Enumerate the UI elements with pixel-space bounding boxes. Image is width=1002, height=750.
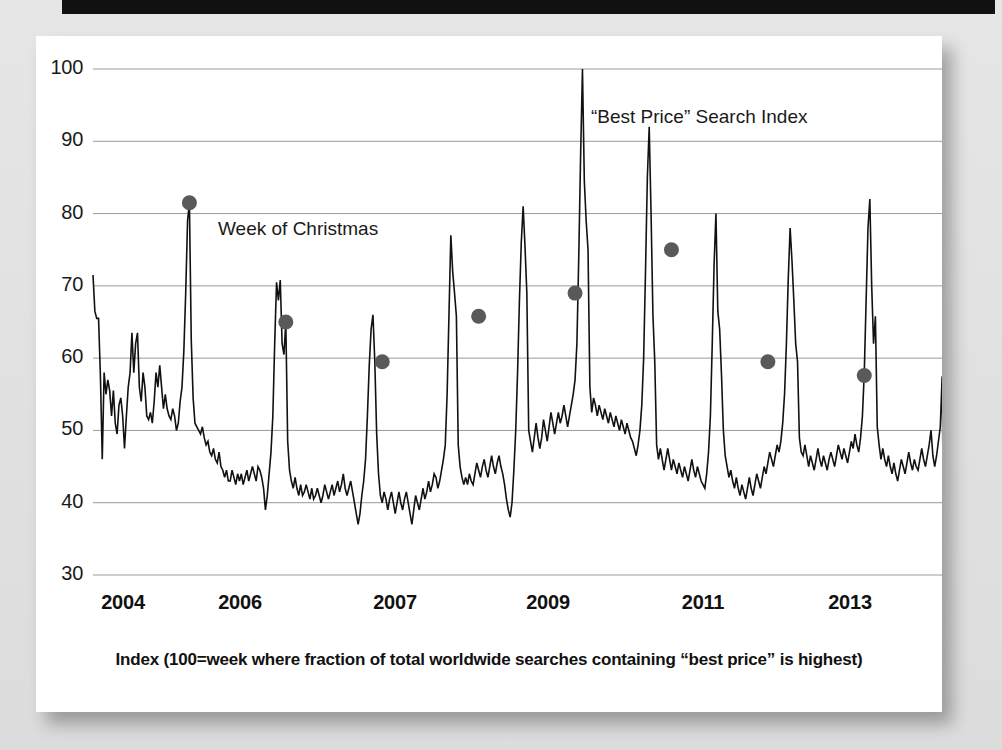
- plot-area: 3040506070809010020042006200720092011201…: [36, 36, 942, 712]
- y-axis-tick-label: 40: [37, 490, 83, 513]
- christmas-week-marker: [278, 315, 293, 330]
- search-index-line: [93, 69, 942, 575]
- chart-caption: Index (100=week where fraction of total …: [36, 650, 942, 670]
- y-axis-tick-label: 70: [37, 273, 83, 296]
- x-axis-tick-label: 2007: [355, 591, 435, 614]
- x-axis-tick-label: 2011: [663, 591, 743, 614]
- x-axis-tick-label: 2013: [810, 591, 890, 614]
- x-axis-tick-label: 2009: [508, 591, 588, 614]
- page-root: 3040506070809010020042006200720092011201…: [0, 0, 1002, 750]
- line-chart-svg: [36, 36, 942, 712]
- y-axis-tick-label: 60: [37, 345, 83, 368]
- christmas-week-marker: [471, 309, 486, 324]
- y-axis-tick-label: 80: [37, 201, 83, 224]
- y-axis-tick-label: 30: [37, 562, 83, 585]
- christmas-week-marker: [568, 286, 583, 301]
- christmas-week-marker: [760, 354, 775, 369]
- x-axis-tick-label: 2004: [83, 591, 163, 614]
- y-axis-tick-label: 100: [37, 56, 83, 79]
- y-axis-tick-label: 90: [37, 128, 83, 151]
- chart-card: 3040506070809010020042006200720092011201…: [36, 36, 942, 712]
- chart-title: “Best Price” Search Index: [591, 106, 807, 128]
- week-of-christmas-annotation: Week of Christmas: [218, 218, 378, 240]
- y-axis-tick-label: 50: [37, 417, 83, 440]
- x-axis-tick-label: 2006: [200, 591, 280, 614]
- christmas-week-marker: [375, 354, 390, 369]
- christmas-week-marker: [182, 195, 197, 210]
- christmas-week-marker: [857, 368, 872, 383]
- christmas-week-marker: [664, 242, 679, 257]
- top-black-bar: [62, 0, 995, 14]
